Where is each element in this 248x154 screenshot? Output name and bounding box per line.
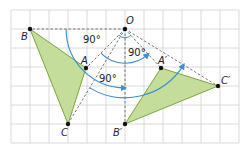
rotation-diagram: OBACA′B′C′90°90°90° [0, 0, 248, 154]
angle-label-90: 90° [128, 47, 146, 58]
triangles [30, 29, 218, 124]
label-b: B [21, 31, 28, 42]
point-o [123, 27, 127, 31]
point-b-prime [123, 122, 127, 126]
triangle-abc [30, 29, 86, 124]
point-a-prime [159, 66, 163, 70]
point-a [84, 66, 88, 70]
label-c-prime: C′ [221, 75, 231, 86]
label-a: A [80, 55, 88, 66]
label-b-prime: B′ [113, 127, 123, 138]
point-c-prime [216, 84, 220, 88]
angle-label-90: 90° [83, 34, 101, 45]
label-o: O [126, 15, 134, 26]
label-a-prime: A′ [157, 55, 168, 66]
point-b [28, 27, 32, 31]
label-c: C [61, 127, 68, 138]
point-c [66, 122, 70, 126]
angle-label-90: 90° [99, 73, 117, 84]
